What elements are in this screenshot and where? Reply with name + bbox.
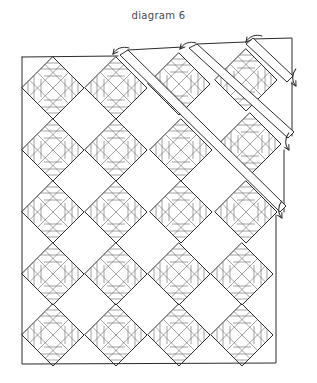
strip-1 bbox=[120, 50, 286, 212]
quilt-diagram bbox=[0, 0, 317, 383]
diagonal-strips bbox=[120, 44, 294, 212]
corner-triangle bbox=[246, 38, 293, 82]
